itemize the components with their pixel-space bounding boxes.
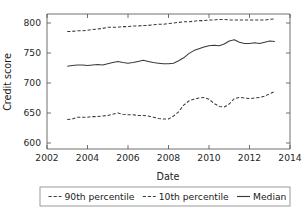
y-tick-label: 800: [23, 17, 41, 28]
y-axis-title: Credit score: [2, 53, 13, 111]
legend-label-10th-percentile: 10th percentile: [159, 191, 229, 202]
x-tick-label: 2002: [35, 152, 58, 163]
x-axis-title: Date: [157, 171, 180, 182]
x-tick-label: 2010: [197, 152, 221, 163]
chart-figure: 2002200420062008201020122014 60065070075…: [0, 0, 306, 215]
series-line-90th-percentile: [67, 19, 275, 32]
x-tick-label: 2012: [238, 152, 261, 163]
y-tick-label: 600: [23, 137, 41, 148]
x-tick-label: 2008: [157, 152, 181, 163]
x-tick-label: 2004: [76, 152, 100, 163]
y-axis-ticks: 600650700750800: [23, 17, 290, 148]
legend-label-90th-percentile: 90th percentile: [65, 191, 135, 202]
x-axis-ticks: 2002200420062008201020122014: [35, 14, 302, 163]
series-line-10th-percentile: [67, 91, 275, 119]
y-tick-label: 750: [23, 47, 41, 58]
plot-box: [47, 14, 290, 149]
chart-legend: 90th percentile10th percentileMedian: [40, 187, 290, 206]
x-tick-label: 2006: [116, 152, 140, 163]
plot-frame: [47, 14, 290, 149]
data-series-group: [67, 19, 275, 120]
legend-label-median: Median: [253, 191, 287, 202]
credit-score-line-chart: 2002200420062008201020122014 60065070075…: [0, 0, 306, 215]
series-line-median: [67, 40, 275, 66]
y-tick-label: 700: [23, 77, 41, 88]
x-tick-label: 2014: [278, 152, 302, 163]
y-tick-label: 650: [23, 107, 41, 118]
